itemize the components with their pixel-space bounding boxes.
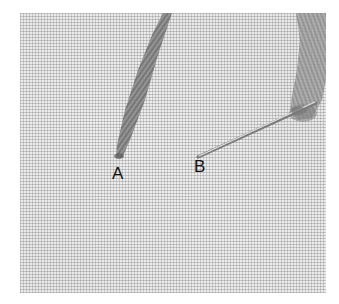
fabric-swatch <box>20 13 326 293</box>
illustration: A B <box>0 0 339 304</box>
label-point-a: A <box>112 165 123 182</box>
label-point-b: B <box>194 158 205 175</box>
